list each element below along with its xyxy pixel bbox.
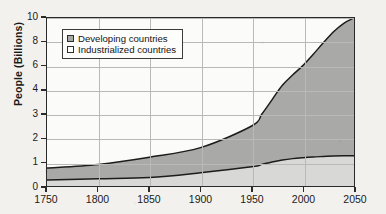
gridline-vertical <box>305 18 306 186</box>
y-axis-tick <box>41 162 46 163</box>
y-axis-tick-label: 6 <box>0 59 38 70</box>
x-axis-tick <box>97 187 98 192</box>
x-axis-tick <box>251 187 252 192</box>
x-axis-tick-label: 1750 <box>21 193 71 205</box>
y-axis-tick <box>41 65 46 66</box>
y-axis-tick-label: 8 <box>0 35 38 46</box>
y-axis-tick-label: 10 <box>0 11 38 22</box>
x-axis-tick <box>200 187 201 192</box>
legend-label-industrialized: Industrialized countries <box>78 44 176 55</box>
gridline-horizontal <box>47 91 354 92</box>
x-axis-tick <box>303 187 304 192</box>
x-axis-tick-label: 2000 <box>279 193 329 205</box>
y-axis-tick <box>41 113 46 114</box>
y-axis-tick-label: 0 <box>0 181 38 192</box>
chart-page: People (Billions) Developing countries I… <box>0 0 386 214</box>
x-axis-tick <box>354 187 355 192</box>
gridline-horizontal <box>47 164 354 165</box>
y-axis-tick <box>41 89 46 90</box>
x-axis-tick-label: 1800 <box>73 193 123 205</box>
y-axis-tick <box>41 138 46 139</box>
x-axis-tick <box>148 187 149 192</box>
chart-legend: Developing countries Industrialized coun… <box>62 29 183 59</box>
y-axis-tick <box>41 41 46 42</box>
y-axis-tick-label: 3 <box>0 108 38 119</box>
legend-item-developing: Developing countries <box>67 33 176 44</box>
y-axis-tick <box>41 16 46 17</box>
x-axis-tick-label: 1850 <box>124 193 174 205</box>
gridline-horizontal <box>47 115 354 116</box>
gridline-horizontal <box>47 139 354 140</box>
gridline-horizontal <box>47 67 354 68</box>
legend-label-developing: Developing countries <box>78 33 168 44</box>
legend-swatch-industrialized <box>67 46 74 53</box>
x-axis-tick <box>45 187 46 192</box>
gridline-horizontal <box>47 18 354 19</box>
gridline-vertical <box>253 18 254 186</box>
gridline-vertical <box>202 18 203 186</box>
x-axis-tick-label: 2050 <box>330 193 380 205</box>
y-axis-tick-label: 1 <box>0 156 38 167</box>
y-axis-tick-label: 2 <box>0 132 38 143</box>
x-axis-tick-label: 1950 <box>227 193 277 205</box>
legend-item-industrialized: Industrialized countries <box>67 44 176 55</box>
legend-swatch-developing <box>67 35 74 42</box>
x-axis-tick-label: 1900 <box>176 193 226 205</box>
y-axis-tick-label: 4 <box>0 83 38 94</box>
